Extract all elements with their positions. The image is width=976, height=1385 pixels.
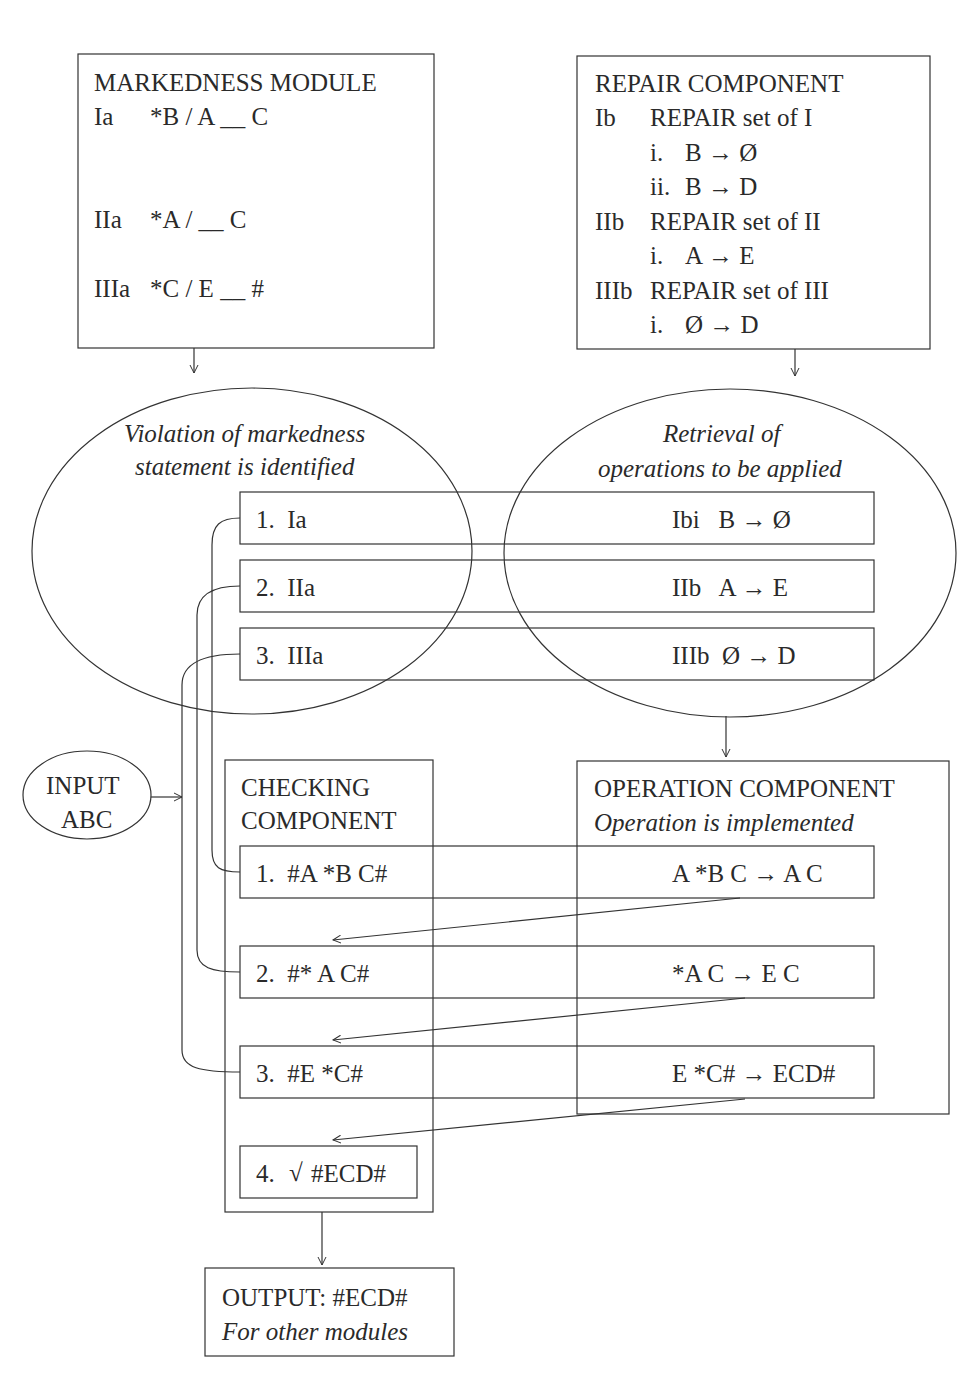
output-label: OUTPUT: #ECD#: [222, 1285, 408, 1310]
violation-row-left: 1. Ia: [256, 507, 307, 532]
repair-set-label-ib: REPAIR set of I: [650, 105, 812, 130]
rule-iia: *A / __ C: [150, 207, 247, 232]
checking-row: 2. #* A C#: [256, 961, 369, 986]
rule-id-iia: IIa: [94, 207, 122, 232]
rule-id-ia: Ia: [94, 104, 113, 129]
repair-op-num: i.: [650, 312, 663, 337]
markedness-module-box: MARKEDNESS MODULE Ia *B / A __ C IIa *A …: [78, 54, 434, 348]
input-value: ABC: [61, 807, 112, 832]
violation-caption-line2: statement is identified: [135, 454, 354, 479]
repair-op: B → Ø: [685, 140, 757, 165]
repair-component-box: REPAIR COMPONENT Ib REPAIR set of I i. B…: [577, 56, 930, 349]
operation-row: E *C# → ECD#: [672, 1061, 835, 1086]
rule-id-iiia: IIIa: [94, 276, 130, 301]
repair-set-id-iiib: IIIb: [595, 278, 632, 303]
checking-component-title-line2: COMPONENT: [241, 808, 397, 833]
output-subtitle: For other modules: [222, 1319, 408, 1344]
checking-final-num: 4.: [256, 1161, 275, 1186]
repair-set-id-iib: IIb: [595, 209, 624, 234]
repair-op-num: i.: [650, 243, 663, 268]
repair-set-label-iiib: REPAIR set of III: [650, 278, 829, 303]
violation-row-right: IIb A → E: [672, 575, 788, 600]
retrieval-caption-line2: operations to be applied: [598, 456, 842, 481]
operation-component-title: OPERATION COMPONENT: [594, 776, 895, 801]
repair-op: Ø → D: [685, 312, 759, 337]
checking-component-title-line1: CHECKING: [241, 775, 370, 800]
checking-row: 1. #A *B C#: [256, 861, 387, 886]
rule-ia: *B / A __ C: [150, 104, 268, 129]
repair-op: B → D: [685, 174, 757, 199]
rule-iiia: *C / E __ #: [150, 276, 264, 301]
operation-row: *A C → E C: [672, 961, 800, 986]
input-label: INPUT: [46, 773, 120, 798]
markedness-module-title: MARKEDNESS MODULE: [94, 70, 377, 95]
operation-component-subtitle: Operation is implemented: [594, 810, 854, 835]
operation-row: A *B C → A C: [672, 861, 823, 886]
repair-op-num: i.: [650, 140, 663, 165]
repair-op: A → E: [685, 243, 754, 268]
repair-set-id-ib: Ib: [595, 105, 616, 130]
checking-final-value: #ECD#: [311, 1161, 386, 1186]
repair-component-title: REPAIR COMPONENT: [595, 71, 843, 96]
violation-row-left: 2. IIa: [256, 575, 315, 600]
check-icon: √: [289, 1160, 303, 1185]
violation-caption-line1: Violation of markedness: [124, 421, 365, 446]
repair-set-label-iib: REPAIR set of II: [650, 209, 821, 234]
violation-row-right: IIIb Ø → D: [672, 643, 796, 668]
repair-op-num: ii.: [650, 174, 670, 199]
checking-row: 3. #E *C#: [256, 1061, 363, 1086]
violation-row-left: 3. IIIa: [256, 643, 323, 668]
retrieval-caption-line1: Retrieval of: [663, 421, 780, 446]
violation-row-right: Ibi B → Ø: [672, 507, 791, 532]
